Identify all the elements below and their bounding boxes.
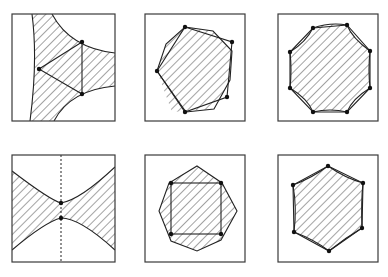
- panel-hyperbolic-triangle: [12, 14, 115, 121]
- panel-bowtie: [12, 155, 115, 262]
- panel-hexagon: [278, 155, 378, 262]
- figure-canvas: [0, 0, 388, 277]
- panel-square-hexagon: [145, 155, 245, 262]
- panel-rotated-octagons: [145, 14, 245, 121]
- panel-octagon: [278, 14, 378, 121]
